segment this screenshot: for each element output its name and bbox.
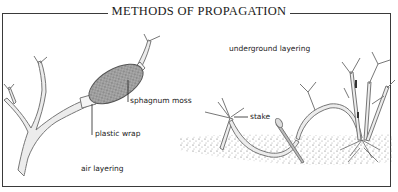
underground-layering-label: underground layering: [229, 44, 310, 53]
sphagnum-moss-label: sphagnum moss: [130, 96, 192, 105]
plastic-wrap-label: plastic wrap: [95, 129, 140, 138]
stake-label: stake: [250, 112, 270, 121]
propagation-illustration: [0, 0, 398, 192]
air-layering-plant: [4, 34, 160, 176]
air-layering-label: air layering: [81, 164, 124, 173]
